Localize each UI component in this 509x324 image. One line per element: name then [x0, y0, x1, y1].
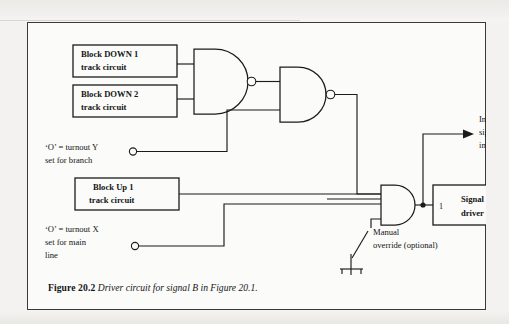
manual-override-line2: override (optional)	[373, 240, 438, 250]
figure-caption: Figure 20.2 Driver circuit for signal B …	[48, 282, 468, 293]
turnout-y-line2: set for branch	[45, 155, 93, 165]
signal-b-driver-line2: driver	[461, 208, 484, 218]
turnout-x-line2: set for main	[45, 237, 87, 247]
input-turnout-x: ‘O’ = turnout X set for main line	[45, 204, 381, 260]
manual-override[interactable]: Manual override (optional)	[340, 219, 438, 275]
block-up-1-line1: Block Up 1	[93, 182, 134, 192]
circuit-schematic: Block DOWN 1 track circuit Block DOWN 2 …	[27, 22, 486, 310]
turnout-x-terminal[interactable]	[131, 242, 138, 249]
override-switch-blade[interactable]	[352, 231, 368, 258]
input-turnout-y: ‘O’ = turnout Y set for branch	[45, 110, 280, 165]
signal-b-driver-line1: Signal B	[461, 194, 486, 204]
block-down-2: Block DOWN 2 track circuit	[73, 85, 177, 117]
manual-override-line1: Manual	[373, 227, 400, 237]
signal-b-driver-box: 1 Signal B driver	[433, 185, 486, 225]
scan-artifact-top	[0, 0, 509, 22]
rear-driver-annotation: Input 2 of signal driver in rear	[479, 114, 486, 150]
nand-gate-2	[280, 67, 335, 122]
block-down-1-line2: track circuit	[81, 62, 127, 72]
turnout-y-line1: ‘O’ = turnout Y	[45, 142, 98, 152]
rear-driver-line2: signal driver	[479, 127, 486, 137]
rear-driver-line1: Input 2 of	[479, 114, 486, 124]
driver-input-number: 1	[439, 202, 443, 211]
block-down-1-line1: Block DOWN 1	[81, 49, 138, 59]
figure-caption-text: Driver circuit for signal B in Figure 20…	[98, 282, 258, 293]
block-down-2-line2: track circuit	[81, 102, 127, 112]
block-up-1-line2: track circuit	[89, 195, 135, 205]
figure-caption-label: Figure 20.2	[48, 282, 95, 293]
scan-artifact-line	[0, 20, 300, 21]
turnout-x-line1: ‘O’ = turnout X	[45, 224, 99, 234]
block-down-1: Block DOWN 1 track circuit	[73, 45, 177, 77]
wire-nand2-to-and	[335, 95, 381, 195]
turnout-x-line3: line	[45, 250, 58, 260]
block-up-1: Block Up 1 track circuit	[75, 178, 179, 210]
and-gate	[381, 185, 415, 225]
nand2-bubble	[326, 90, 335, 99]
rear-driver-line3: in rear	[479, 140, 486, 150]
block-down-2-line1: Block DOWN 2	[81, 89, 138, 99]
turnout-y-terminal[interactable]	[129, 148, 136, 155]
nand1-bubble	[247, 77, 256, 86]
scanned-page: Block DOWN 1 track circuit Block DOWN 2 …	[0, 0, 509, 324]
scan-artifact-bottom	[0, 310, 509, 324]
nand-gate-1	[194, 49, 256, 114]
rear-driver-arrowhead	[463, 130, 474, 139]
